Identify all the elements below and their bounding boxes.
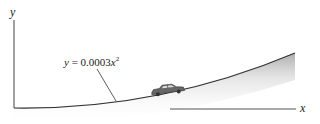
y-axis-label: y [9, 5, 16, 19]
label-leader-line [97, 69, 116, 101]
diagram-canvas: y x y = 0.0003x2 [0, 0, 320, 124]
curve-equation-label: y = 0.0003x2 [63, 55, 120, 68]
ground-shading [14, 53, 295, 124]
x-axis-label: x [299, 101, 306, 115]
